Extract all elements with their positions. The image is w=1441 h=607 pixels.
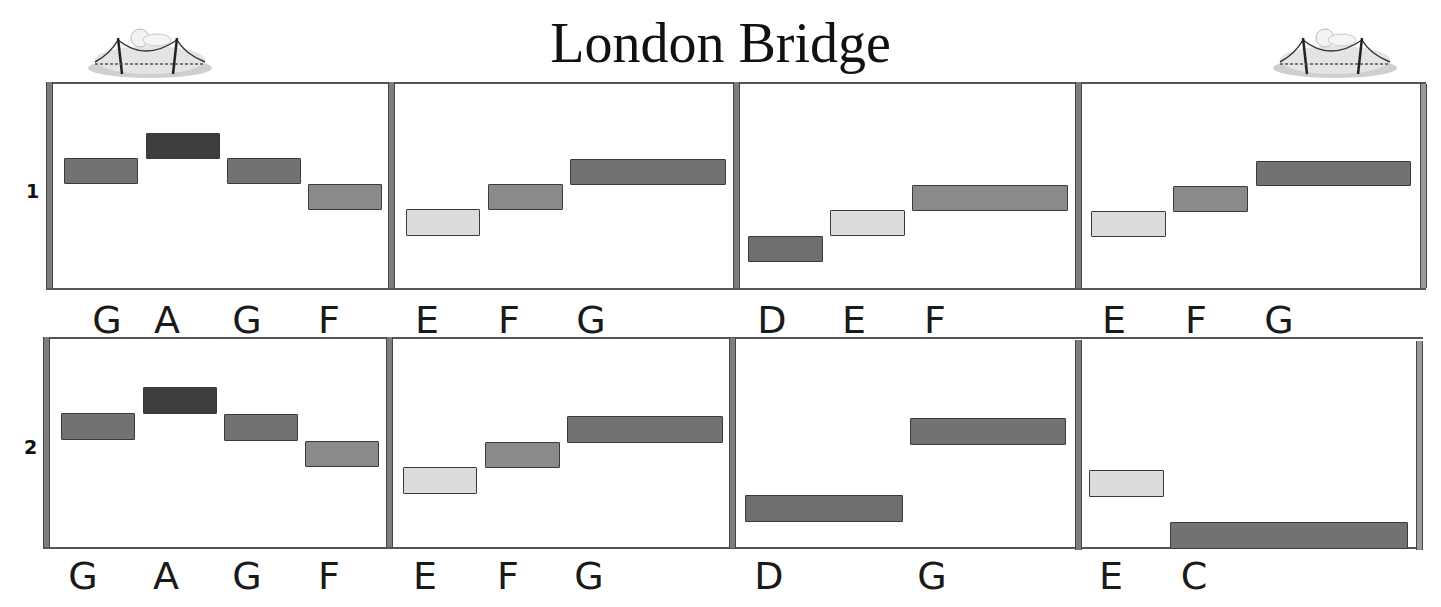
barline [1416,341,1423,550]
bridge-icon [1270,20,1400,80]
note-letter: F [483,556,533,596]
note-letter: G [564,556,614,596]
note-letter: G [82,300,132,340]
note-letter: E [400,556,450,596]
note-letter: G [222,556,272,596]
note-letter: G [907,556,957,596]
note-block-g [1256,161,1411,186]
note-block-f [485,442,560,468]
note-letter: F [1171,300,1221,340]
note-block-f [1173,186,1248,212]
note-letter: G [58,556,108,596]
note-block-g [567,416,723,443]
note-block-d [748,236,823,262]
note-letter: C [1169,556,1219,596]
barline [43,337,50,547]
note-block-g [570,159,726,185]
note-block-f [305,441,379,467]
note-letter: A [142,300,192,340]
note-letter: G [222,300,272,340]
note-block-c [1170,522,1408,549]
note-block-g [910,418,1066,445]
barline [46,82,53,288]
row-number-1: 1 [26,180,39,202]
note-block-g [224,414,298,441]
note-block-a [143,387,217,414]
note-letter: E [829,300,879,340]
note-letter: E [402,300,452,340]
barline [388,82,395,288]
note-letter: F [304,556,354,596]
note-letter: F [910,300,960,340]
note-letter: G [1254,300,1304,340]
note-letter: E [1086,556,1136,596]
note-block-e [1089,470,1164,497]
barline [386,337,393,547]
note-block-g [61,413,135,440]
note-block-g [64,158,138,184]
note-letter: A [141,556,191,596]
note-block-f [912,185,1068,211]
row-number-2: 2 [24,436,37,458]
bridge-icon [85,20,215,80]
note-block-a [146,133,220,159]
barline [1420,84,1427,288]
note-letter: G [566,300,616,340]
note-letter: E [1089,300,1139,340]
note-block-g [227,158,301,184]
note-block-d [745,495,903,522]
note-block-e [830,210,905,236]
note-letter: D [747,300,797,340]
note-block-e [1091,211,1166,237]
barline [1075,340,1082,550]
note-letter: F [484,300,534,340]
note-letter: D [744,556,794,596]
note-block-f [488,184,563,210]
note-block-e [406,209,480,236]
note-letter: F [304,300,354,340]
barline [733,82,740,288]
page-title: London Bridge [0,8,1441,78]
note-block-f [308,184,382,210]
barline [1075,82,1082,288]
note-block-e [403,467,477,494]
barline [729,338,736,548]
